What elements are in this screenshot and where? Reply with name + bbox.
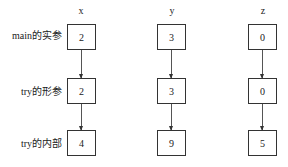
box-value: 2 — [79, 86, 84, 97]
box-value: 2 — [79, 32, 84, 43]
column-header-y: y — [157, 5, 187, 17]
box-y-try-param: 3 — [157, 78, 186, 104]
box-value: 3 — [169, 86, 174, 97]
box-y-try-internal: 9 — [157, 130, 186, 156]
box-z-try-param: 0 — [248, 78, 277, 104]
box-value: 5 — [260, 138, 265, 149]
box-value: 0 — [260, 86, 265, 97]
row-label-try-formal-params: try的形参 — [0, 86, 62, 98]
column-header-x: x — [66, 5, 96, 17]
box-y-main: 3 — [157, 24, 186, 50]
arrow-down-icon — [171, 50, 172, 78]
row-label-try-internal: try的内部 — [0, 138, 62, 150]
box-z-try-internal: 5 — [248, 130, 277, 156]
row-label-main-actual-args: main的实参 — [0, 30, 62, 42]
box-x-try-internal: 4 — [67, 130, 96, 156]
box-x-main: 2 — [67, 24, 96, 50]
box-z-main: 0 — [248, 24, 277, 50]
arrow-down-icon — [262, 50, 263, 78]
arrow-down-icon — [81, 50, 82, 78]
column-header-z: z — [248, 5, 278, 17]
arrow-down-icon — [171, 104, 172, 130]
arrow-down-icon — [81, 104, 82, 130]
box-value: 4 — [79, 138, 84, 149]
box-value: 0 — [260, 32, 265, 43]
box-x-try-param: 2 — [67, 78, 96, 104]
arrow-down-icon — [262, 104, 263, 130]
box-value: 3 — [169, 32, 174, 43]
box-value: 9 — [169, 138, 174, 149]
